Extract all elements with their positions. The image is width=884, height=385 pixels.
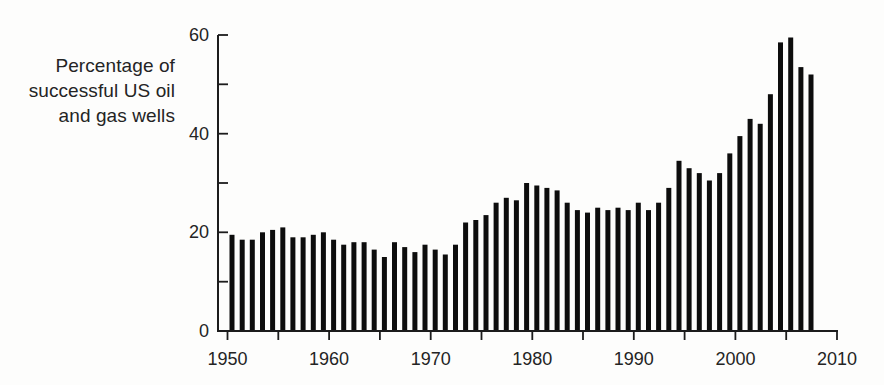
bar-1954 [270,230,275,331]
bar-1959 [321,232,326,331]
bar-1979 [524,183,529,331]
chart-canvas: Percentage of successful US oil and gas … [0,0,884,385]
bar-1973 [463,223,468,332]
bar-1982 [555,190,560,331]
bar-1961 [341,245,346,331]
bar-1956 [290,237,295,331]
bar-1957 [301,237,306,331]
bar-1980 [534,186,539,332]
bar-1975 [484,215,489,331]
bar-1965 [382,257,387,331]
bar-1977 [504,198,509,331]
bar-2003 [768,94,773,331]
bar-1964 [372,250,377,331]
x-tick-label-2000: 2000 [715,349,755,369]
bar-1953 [260,232,265,331]
bar-1972 [453,245,458,331]
bar-1978 [514,200,519,331]
bar-2002 [758,124,763,331]
bar-1990 [636,203,641,331]
x-tick-label-1970: 1970 [411,349,451,369]
bar-1986 [595,208,600,331]
y-tick-label-0: 0 [199,321,209,341]
bar-1950 [230,235,235,331]
bar-1991 [646,210,651,331]
bar-1951 [240,240,245,331]
bar-2006 [798,67,803,331]
bar-chart-successful-us-wells: 02040601950196019701980199020002010 [0,0,884,385]
x-tick-label-1950: 1950 [207,349,247,369]
y-tick-label-60: 60 [189,25,209,45]
bar-1966 [392,242,397,331]
bar-1992 [656,203,661,331]
bar-1955 [280,227,285,331]
bar-1981 [544,188,549,331]
y-tick-label-40: 40 [189,124,209,144]
bar-1983 [565,203,570,331]
bar-1995 [687,168,692,331]
bar-1960 [331,240,336,331]
x-tick-label-1990: 1990 [614,349,654,369]
bar-2000 [737,136,742,331]
bar-1968 [412,252,417,331]
bar-1987 [605,210,610,331]
bar-1996 [697,173,702,331]
bar-1999 [727,153,732,331]
bar-1984 [575,210,580,331]
bar-2004 [778,42,783,331]
bar-1993 [666,188,671,331]
bar-1988 [616,208,621,331]
bar-1974 [473,220,478,331]
y-tick-label-20: 20 [189,222,209,242]
bar-1989 [626,210,631,331]
bar-2007 [809,75,814,332]
x-tick-label-1960: 1960 [309,349,349,369]
bar-1962 [351,242,356,331]
x-tick-label-2010: 2010 [817,349,857,369]
bar-1994 [677,161,682,331]
bar-1952 [250,240,255,331]
bar-1976 [494,203,499,331]
bar-1969 [423,245,428,331]
bar-1998 [717,173,722,331]
bar-1967 [402,247,407,331]
bar-1997 [707,181,712,332]
x-tick-label-1980: 1980 [512,349,552,369]
bar-1963 [362,242,367,331]
bar-1971 [443,255,448,332]
bar-2001 [748,119,753,331]
bar-1970 [433,250,438,331]
bar-2005 [788,38,793,332]
bar-1958 [311,235,316,331]
bar-1985 [585,213,590,331]
